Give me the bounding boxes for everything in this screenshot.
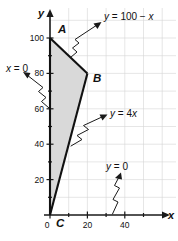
xtick-label-0: 0 [45, 220, 50, 230]
line-label-4x: y = 4x [109, 108, 138, 119]
ytick-label-60: 60 [35, 104, 45, 114]
coordinate-plot: y x A B C 100 80 60 40 20 0 20 40 y = 10… [0, 0, 178, 241]
leader-100-minus-x [71, 22, 102, 58]
y-axis-arrowhead [46, 9, 53, 17]
line-label-x-equals-0: x = 0 [5, 63, 28, 74]
x-axis-label: x [167, 209, 175, 221]
line-label-100-minus-x: y = 100 − x [103, 11, 154, 22]
y-axis-label: y [37, 7, 45, 19]
ytick-label-100: 100 [30, 33, 44, 43]
vertex-label-a: A [57, 23, 66, 35]
xtick-label-40: 40 [120, 220, 130, 230]
ytick-label-20: 20 [35, 175, 45, 185]
leader-4x [71, 115, 108, 147]
leader-y-equals-0 [113, 173, 123, 215]
ytick-label-40: 40 [35, 139, 45, 149]
graph-figure: y x A B C 100 80 60 40 20 0 20 40 y = 10… [0, 0, 178, 241]
ytick-label-80: 80 [35, 68, 45, 78]
line-label-y-equals-0: y = 0 [105, 161, 128, 172]
xtick-label-20: 20 [83, 220, 93, 230]
vertex-label-c: C [56, 217, 65, 229]
vertex-label-b: B [93, 72, 101, 84]
